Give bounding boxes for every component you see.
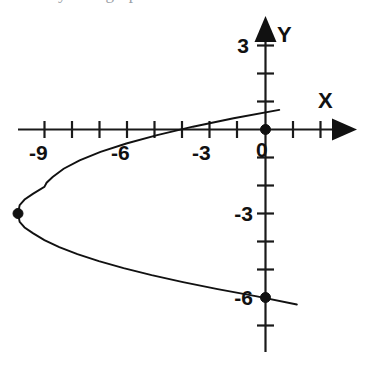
- vertex-point: [13, 209, 23, 219]
- origin-intercept-point: [261, 125, 271, 135]
- parabola-graph-figure: X Y -9 -6 -3 0 3 -3 -6: [0, 0, 365, 369]
- lower-intercept-point: [261, 293, 271, 303]
- y-axis-label: Y: [277, 22, 292, 47]
- x-axis-label: X: [318, 88, 333, 113]
- y-axis-arrow-icon: [255, 16, 277, 42]
- x-tick-label-neg3: -3: [192, 141, 211, 164]
- x-tick-label-neg6: -6: [111, 141, 130, 164]
- y-tick-label-neg6: -6: [234, 286, 253, 309]
- coordinate-plane: X Y -9 -6 -3 0 3 -3 -6: [0, 0, 365, 369]
- x-axis-arrow-icon: [332, 119, 357, 141]
- x-tick-label-zero: 0: [256, 138, 268, 161]
- y-tick-label-neg3: -3: [234, 202, 253, 225]
- y-tick-label-3: 3: [237, 34, 249, 57]
- x-tick-label-neg9: -9: [29, 141, 48, 164]
